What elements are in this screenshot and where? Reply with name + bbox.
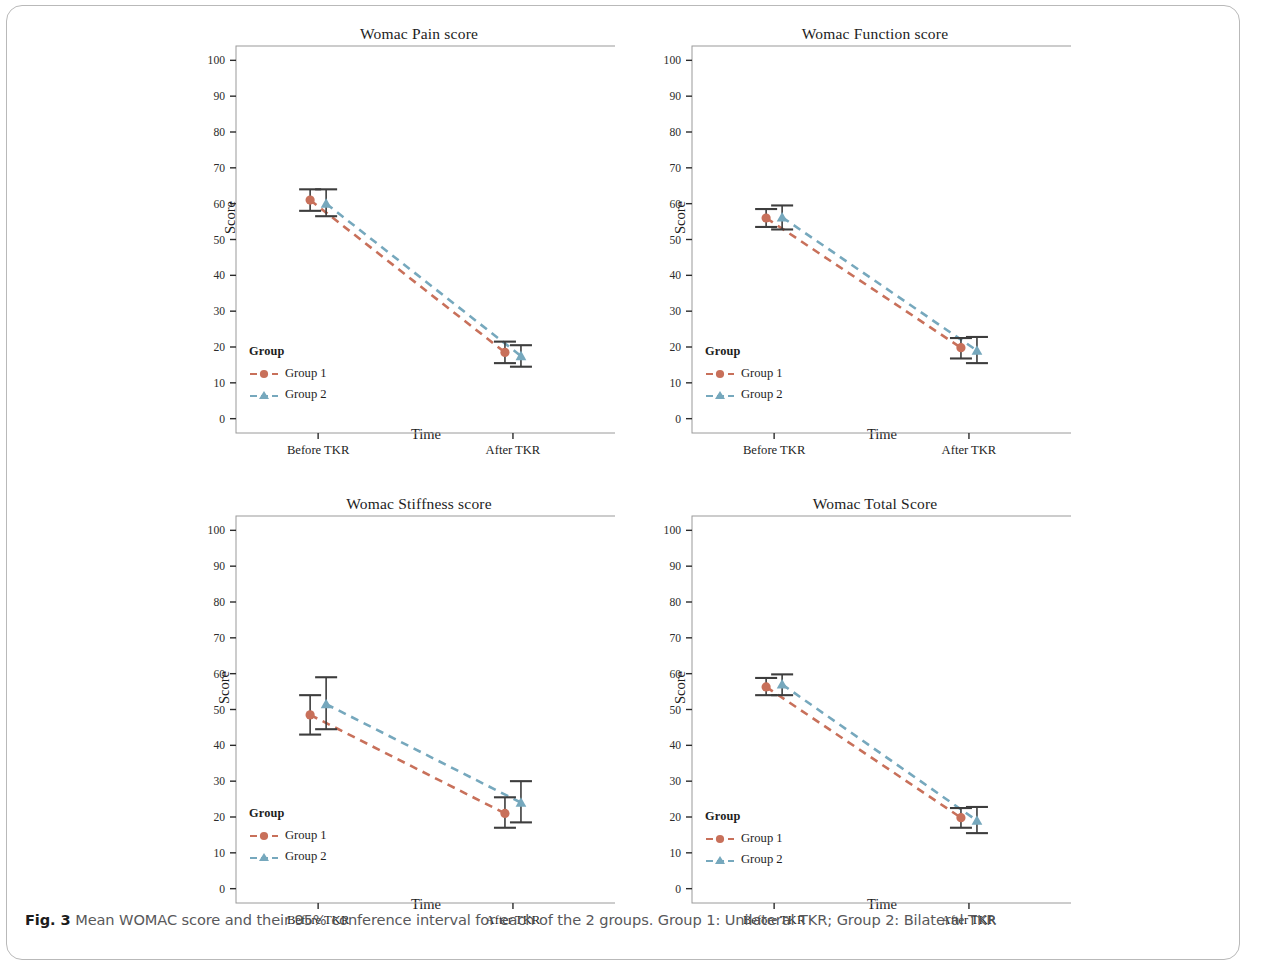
svg-text:0: 0 — [219, 883, 225, 896]
svg-text:80: 80 — [213, 126, 225, 139]
svg-text:70: 70 — [669, 632, 681, 645]
svg-text:10: 10 — [669, 377, 681, 390]
svg-text:50: 50 — [669, 704, 681, 717]
legend-item-group-2[interactable]: Group 2 — [249, 846, 327, 867]
svg-text:90: 90 — [213, 90, 225, 103]
svg-text:60: 60 — [213, 668, 225, 681]
svg-text:20: 20 — [669, 341, 681, 354]
svg-text:40: 40 — [669, 269, 681, 282]
svg-text:30: 30 — [669, 775, 681, 788]
svg-text:0: 0 — [675, 883, 681, 896]
svg-text:40: 40 — [213, 739, 225, 752]
legend-item-group-2[interactable]: Group 2 — [705, 384, 783, 405]
triangle-marker-icon — [249, 388, 279, 402]
circle-marker-icon — [249, 367, 279, 381]
legend-label: Group 1 — [741, 831, 783, 846]
svg-text:60: 60 — [213, 198, 225, 211]
legend-item-group-1[interactable]: Group 1 — [705, 363, 783, 384]
svg-text:60: 60 — [669, 198, 681, 211]
svg-text:80: 80 — [213, 596, 225, 609]
svg-text:60: 60 — [669, 668, 681, 681]
svg-text:20: 20 — [213, 341, 225, 354]
legend-title: Group — [705, 809, 783, 824]
svg-text:20: 20 — [669, 811, 681, 824]
svg-text:40: 40 — [669, 739, 681, 752]
svg-text:0: 0 — [675, 413, 681, 426]
svg-text:90: 90 — [213, 560, 225, 573]
legend: Group Group 1 Group 2 — [249, 806, 327, 867]
legend: Group Group 1 Group 2 — [249, 344, 327, 405]
circle-marker-icon — [249, 829, 279, 843]
svg-text:100: 100 — [208, 524, 226, 537]
svg-text:30: 30 — [213, 305, 225, 318]
triangle-marker-icon — [705, 388, 735, 402]
svg-text:After TKR: After TKR — [942, 443, 997, 457]
legend-title: Group — [249, 344, 327, 359]
legend-item-group-1[interactable]: Group 1 — [249, 825, 327, 846]
svg-text:90: 90 — [669, 90, 681, 103]
svg-text:30: 30 — [669, 305, 681, 318]
svg-text:70: 70 — [213, 162, 225, 175]
svg-text:0: 0 — [219, 413, 225, 426]
svg-text:80: 80 — [669, 126, 681, 139]
legend-label: Group 1 — [285, 828, 327, 843]
circle-marker-icon — [705, 367, 735, 381]
legend-label: Group 1 — [741, 366, 783, 381]
svg-text:100: 100 — [664, 54, 682, 67]
figure-caption: Fig. 3 Mean WOMAC score and their 95% co… — [25, 911, 1225, 930]
svg-text:10: 10 — [213, 377, 225, 390]
svg-text:10: 10 — [213, 847, 225, 860]
figure-card: Womac Pain score Score Time 010203040506… — [6, 5, 1240, 960]
legend: Group Group 1 Group 2 — [705, 809, 783, 870]
legend-title: Group — [249, 806, 327, 821]
legend-label: Group 2 — [285, 849, 327, 864]
figure-number: Fig. 3 — [25, 911, 71, 928]
svg-text:70: 70 — [213, 632, 225, 645]
chart-panel-womac-stiffness: Womac Stiffness score Score Time 0102030… — [185, 484, 615, 934]
figure-caption-text: Mean WOMAC score and their 95% conferenc… — [71, 911, 997, 928]
svg-text:50: 50 — [213, 234, 225, 247]
svg-text:100: 100 — [208, 54, 226, 67]
circle-marker-icon — [705, 832, 735, 846]
chart-panel-womac-pain: Womac Pain score Score Time 010203040506… — [185, 14, 615, 464]
legend-label: Group 2 — [741, 852, 783, 867]
triangle-marker-icon — [705, 853, 735, 867]
svg-text:70: 70 — [669, 162, 681, 175]
svg-text:Before TKR: Before TKR — [287, 443, 350, 457]
chart-panel-grid: Womac Pain score Score Time 010203040506… — [7, 6, 1241, 906]
svg-text:10: 10 — [669, 847, 681, 860]
legend-item-group-1[interactable]: Group 1 — [249, 363, 327, 384]
chart-panel-womac-total: Womac Total Score Score Time 01020304050… — [641, 484, 1071, 934]
legend-label: Group 2 — [741, 387, 783, 402]
svg-text:40: 40 — [213, 269, 225, 282]
svg-text:20: 20 — [213, 811, 225, 824]
svg-text:30: 30 — [213, 775, 225, 788]
legend-item-group-2[interactable]: Group 2 — [705, 849, 783, 870]
svg-text:Before TKR: Before TKR — [743, 443, 806, 457]
legend: Group Group 1 Group 2 — [705, 344, 783, 405]
svg-text:After TKR: After TKR — [486, 443, 541, 457]
legend-item-group-1[interactable]: Group 1 — [705, 828, 783, 849]
triangle-marker-icon — [249, 850, 279, 864]
svg-text:90: 90 — [669, 560, 681, 573]
legend-label: Group 2 — [285, 387, 327, 402]
legend-item-group-2[interactable]: Group 2 — [249, 384, 327, 405]
legend-title: Group — [705, 344, 783, 359]
svg-text:80: 80 — [669, 596, 681, 609]
legend-label: Group 1 — [285, 366, 327, 381]
chart-panel-womac-function: Womac Function score Score Time 01020304… — [641, 14, 1071, 464]
svg-text:100: 100 — [664, 524, 682, 537]
svg-text:50: 50 — [213, 704, 225, 717]
svg-text:50: 50 — [669, 234, 681, 247]
